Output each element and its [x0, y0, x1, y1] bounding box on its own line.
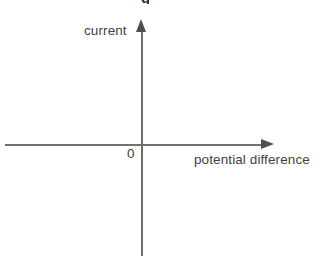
cropped-heading-fragment: g [141, 0, 149, 4]
x-axis-line [5, 144, 267, 146]
x-axis-label: potential difference [194, 153, 310, 167]
arrow-right-icon [261, 139, 274, 149]
origin-label: 0 [127, 147, 135, 161]
axes-diagram: g current potential difference 0 [0, 0, 323, 264]
y-axis-label: current [84, 24, 127, 38]
y-axis-line [141, 26, 143, 256]
arrow-up-icon [136, 19, 146, 32]
